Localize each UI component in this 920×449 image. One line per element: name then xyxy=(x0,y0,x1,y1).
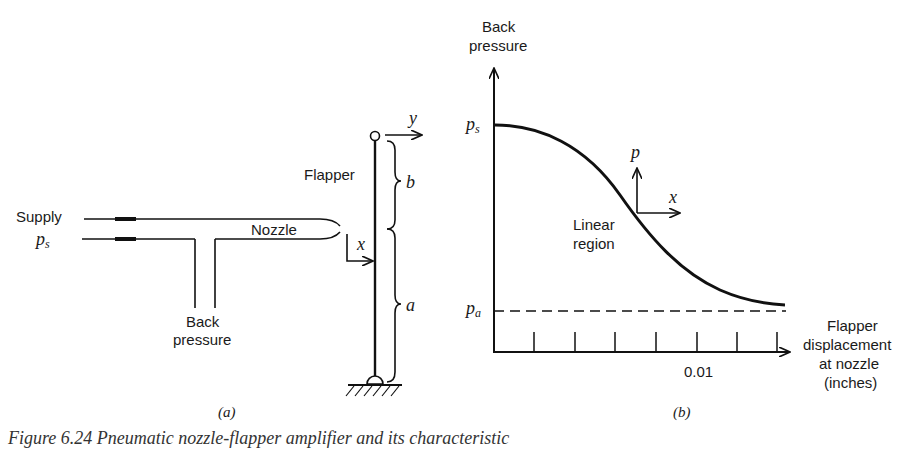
x-axis-label-line3: at nozzle xyxy=(819,355,879,372)
y-label: y xyxy=(407,108,417,128)
x-tick-label: 0.01 xyxy=(684,363,713,380)
x-axis-label-line1: Flapper xyxy=(827,317,878,334)
inset-x-label: x xyxy=(668,187,677,207)
back-pressure-label-line2: pressure xyxy=(173,331,231,348)
supply-pressure-symbol: ps xyxy=(34,229,50,251)
brace-a-icon xyxy=(387,229,401,382)
figure-b-characteristic-chart: Back pressure 0.01 ps pa p x Linear regi… xyxy=(464,18,892,421)
x-axis-ticks xyxy=(534,332,777,352)
linear-region-label-line2: region xyxy=(573,235,615,252)
nozzle-tip-top xyxy=(320,219,340,226)
flapper-label: Flapper xyxy=(304,166,355,183)
flapper-top-pivot-icon xyxy=(371,132,380,141)
y-axis-label-line2: pressure xyxy=(469,37,527,54)
supply-pipe xyxy=(82,217,340,308)
nozzle-label: Nozzle xyxy=(251,221,297,238)
figure-a-label: (a) xyxy=(218,404,236,421)
y-axis-label-line1: Back xyxy=(482,18,516,35)
x-axis-label-line2: displacement xyxy=(803,336,892,353)
ground-hatching-icon xyxy=(346,386,399,396)
x-label: x xyxy=(356,234,365,254)
linear-region-label-line1: Linear xyxy=(573,216,615,233)
ps-label: ps xyxy=(464,114,480,136)
figure-a-nozzle-flapper: Supply ps Nozzle Back pressure x xyxy=(16,108,422,421)
inset-p-label: p xyxy=(629,142,640,162)
a-label: a xyxy=(406,295,415,315)
x-axis-label-line4: (inches) xyxy=(824,374,877,391)
figure-b-label: (b) xyxy=(673,404,691,421)
back-pressure-curve xyxy=(495,125,785,305)
pa-label: pa xyxy=(464,298,481,320)
back-pressure-label-line1: Back xyxy=(186,313,220,330)
restriction-orifice-top xyxy=(115,217,136,221)
brace-b-icon xyxy=(387,141,401,229)
b-label: b xyxy=(406,172,415,192)
supply-label: Supply xyxy=(16,208,62,225)
ground-pivot-icon xyxy=(367,376,383,384)
figure-caption: Figure 6.24 Pneumatic nozzle-flapper amp… xyxy=(8,428,509,449)
restriction-orifice-bottom xyxy=(115,237,136,241)
nozzle-tip-bottom xyxy=(320,232,340,239)
